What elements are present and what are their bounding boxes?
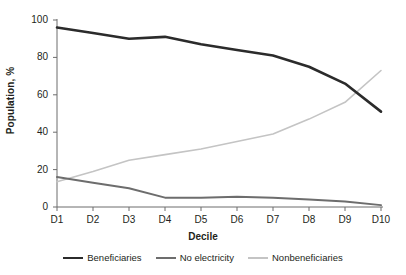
series-line-no-electricity: [57, 177, 381, 205]
x-tick-label: D1: [40, 215, 74, 225]
x-tick-label: D3: [112, 215, 146, 225]
y-axis-title-text: Population, %: [6, 66, 17, 133]
legend-swatch-icon: [63, 257, 83, 259]
x-tick-label: D5: [184, 215, 218, 225]
y-tick-label: 60: [20, 90, 48, 100]
legend-swatch-icon: [156, 257, 176, 259]
series-line-beneficiaries: [57, 27, 381, 111]
y-tick-label: 100: [20, 15, 48, 25]
y-tick-label: 80: [20, 52, 48, 62]
x-tick-label: D8: [292, 215, 326, 225]
x-tick-label: D2: [76, 215, 110, 225]
legend-label: Beneficiaries: [87, 252, 141, 263]
series-line-nonbeneficiaries: [57, 70, 381, 181]
legend-swatch-icon: [248, 257, 268, 259]
x-tick-label: D7: [256, 215, 290, 225]
legend-label: No electricity: [180, 252, 234, 263]
plot-area: [0, 0, 406, 232]
x-tick-label: D4: [148, 215, 182, 225]
series-lines: [57, 27, 381, 205]
y-tick-label: 0: [20, 202, 48, 212]
x-axis-title-text: Decile: [188, 231, 217, 242]
y-tick-label: 20: [20, 165, 48, 175]
legend-item-nonbeneficiaries[interactable]: Nonbeneficiaries: [248, 252, 343, 263]
x-axis-title: Decile: [0, 231, 406, 242]
chart-legend: BeneficiariesNo electricityNonbeneficiar…: [0, 252, 406, 263]
y-tick-label: 40: [20, 127, 48, 137]
axis-ticks: [53, 20, 381, 211]
legend-item-no-electricity[interactable]: No electricity: [156, 252, 234, 263]
x-tick-label: D10: [364, 215, 398, 225]
chart-container: Population, % 020406080100 D1D2D3D4D5D6D…: [0, 0, 406, 275]
x-tick-label: D6: [220, 215, 254, 225]
x-tick-label: D9: [328, 215, 362, 225]
y-axis-title: Population, %: [2, 0, 20, 200]
legend-label: Nonbeneficiaries: [272, 252, 343, 263]
legend-item-beneficiaries[interactable]: Beneficiaries: [63, 252, 141, 263]
